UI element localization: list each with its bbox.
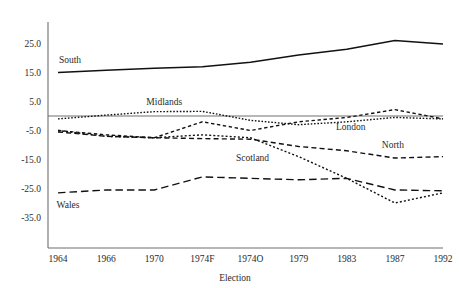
series-label-wales: Wales bbox=[57, 200, 80, 210]
x-tick-label: 1983 bbox=[337, 254, 356, 264]
series-label-south: South bbox=[59, 55, 81, 65]
x-tick-label: 1974O bbox=[238, 254, 264, 264]
y-tick-label: 25.0 bbox=[24, 39, 41, 49]
x-axis-tick-labels: 1964196619701974F1974O1979198319871992 bbox=[49, 254, 453, 264]
line-chart: 25.015.05.0-5.0-15.0-25.0-35.0 196419661… bbox=[0, 0, 459, 288]
y-tick-label: 5.0 bbox=[29, 97, 41, 107]
y-tick-label: -5.0 bbox=[26, 126, 41, 136]
y-tick-label: -35.0 bbox=[21, 213, 41, 223]
x-tick-label: 1966 bbox=[97, 254, 116, 264]
y-tick-label: -15.0 bbox=[21, 155, 41, 165]
x-tick-label: 1974F bbox=[190, 254, 214, 264]
series-label-midlands: Midlands bbox=[146, 97, 182, 107]
x-tick-label: 1987 bbox=[385, 254, 404, 264]
series-line-wales bbox=[58, 177, 443, 193]
x-axis-title: Election bbox=[219, 273, 251, 283]
series-lines bbox=[58, 41, 443, 203]
x-tick-label: 1964 bbox=[49, 254, 68, 264]
y-tick-label: -25.0 bbox=[21, 184, 41, 194]
series-line-london bbox=[58, 110, 443, 138]
x-tick-label: 1970 bbox=[145, 254, 164, 264]
series-label-london: London bbox=[336, 122, 366, 132]
series-line-south bbox=[58, 41, 443, 73]
x-tick-label: 1992 bbox=[434, 254, 453, 264]
x-tick-label: 1979 bbox=[289, 254, 308, 264]
y-tick-label: 15.0 bbox=[24, 68, 41, 78]
series-line-midlands bbox=[58, 111, 443, 124]
series-label-north: North bbox=[382, 140, 404, 150]
series-label-scotland: Scotland bbox=[236, 153, 269, 163]
y-axis-tick-labels: 25.015.05.0-5.0-15.0-25.0-35.0 bbox=[21, 39, 41, 223]
chart-container: 25.015.05.0-5.0-15.0-25.0-35.0 196419661… bbox=[0, 0, 459, 288]
series-inline-labels: SouthMidlandsLondonNorthScotlandWales bbox=[57, 55, 405, 210]
